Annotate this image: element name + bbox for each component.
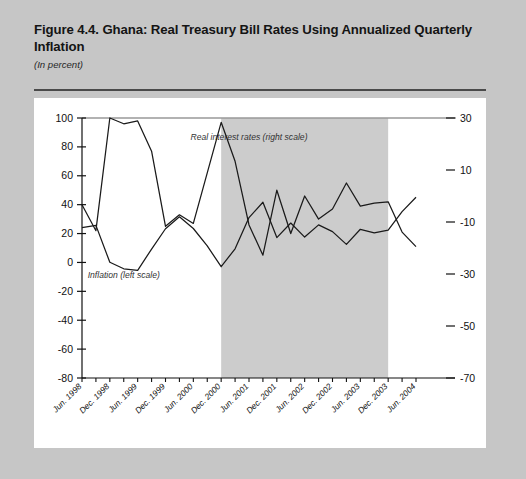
right-axis-tick-label: 30 bbox=[460, 112, 472, 124]
left-axis-tick-label: 80 bbox=[61, 140, 73, 152]
figure-card: Figure 4.4. Ghana: Real Treasury Bill Ra… bbox=[18, 10, 508, 462]
left-axis-tick-label: -20 bbox=[58, 285, 73, 297]
title-divider bbox=[34, 89, 486, 91]
left-axis-tick-label: 20 bbox=[61, 227, 73, 239]
x-axis-tick-label: Dec. 2002 bbox=[300, 381, 334, 415]
annotation-inflation-label: Inflation (left scale) bbox=[88, 270, 160, 280]
x-axis-tick-label: Jun. 2004 bbox=[384, 381, 418, 415]
right-axis-tick-label: -70 bbox=[460, 372, 475, 384]
left-axis-tick-label: -40 bbox=[58, 314, 73, 326]
chart-canvas: 100806040200-20-40-60-803010-10-30-50-70… bbox=[34, 98, 486, 448]
left-axis-tick-label: -80 bbox=[58, 372, 73, 384]
plot-panel: 100806040200-20-40-60-803010-10-30-50-70… bbox=[34, 98, 486, 448]
left-axis-tick-label: 0 bbox=[67, 256, 73, 268]
title-block: Figure 4.4. Ghana: Real Treasury Bill Ra… bbox=[34, 22, 486, 70]
x-axis-tick-label: Dec. 1999 bbox=[133, 381, 167, 415]
left-axis-tick-label: 100 bbox=[55, 112, 73, 124]
right-axis-tick-label: -10 bbox=[460, 216, 475, 228]
right-axis-tick-label: -50 bbox=[460, 320, 475, 332]
x-axis-tick-label: Dec. 1998 bbox=[77, 381, 111, 415]
right-axis-tick-label: -30 bbox=[460, 268, 475, 280]
left-axis-tick-label: 60 bbox=[61, 169, 73, 181]
x-axis-tick-label: Dec. 2000 bbox=[189, 381, 223, 415]
right-axis-tick-label: 10 bbox=[460, 164, 472, 176]
left-axis-tick-label: 40 bbox=[61, 198, 73, 210]
annotation-real-rates-label: Real interest rates (right scale) bbox=[190, 132, 307, 142]
figure-subtitle: (In percent) bbox=[34, 59, 486, 70]
x-axis-tick-label: Dec. 2001 bbox=[244, 381, 278, 415]
left-axis-tick-label: -60 bbox=[58, 343, 73, 355]
shaded-aid-surge-band bbox=[221, 118, 388, 378]
x-axis-tick-label: Dec. 2003 bbox=[356, 381, 390, 415]
page-title: Figure 4.4. Ghana: Real Treasury Bill Ra… bbox=[34, 22, 486, 55]
